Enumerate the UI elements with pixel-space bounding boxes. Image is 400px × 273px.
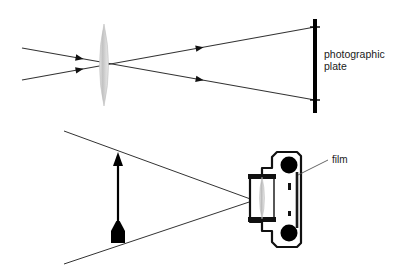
optics-figure: photographic plate bbox=[0, 0, 400, 273]
photographic-plate bbox=[313, 19, 317, 113]
top-panel-group: photographic plate bbox=[22, 19, 385, 113]
ray-lower-line bbox=[22, 27, 315, 80]
ray-upper-arrowhead bbox=[75, 54, 83, 60]
object-arrow-foot bbox=[111, 221, 125, 243]
ray-lower-arrowhead bbox=[75, 67, 83, 73]
camera-body bbox=[248, 152, 301, 247]
converging-lens-icon bbox=[100, 24, 109, 106]
bottom-panel-group: film bbox=[64, 131, 348, 264]
film-image-mark-bottom bbox=[288, 211, 291, 216]
film-spool-bottom bbox=[281, 225, 298, 242]
object-arrow bbox=[111, 152, 125, 243]
film-spool-top bbox=[281, 157, 298, 174]
diagram-canvas: photographic plate bbox=[0, 0, 400, 273]
film-image-mark-top bbox=[288, 183, 291, 190]
ray-lower-arrowhead-outgoing bbox=[195, 45, 203, 51]
ray-upper-arrowhead-outgoing bbox=[195, 76, 203, 82]
photographic-plate-label-line2: plate bbox=[324, 60, 347, 72]
object-arrow-shaft bbox=[117, 166, 119, 221]
ray-lower-incoming bbox=[22, 27, 315, 80]
ray-upper-incoming bbox=[22, 48, 315, 100]
film-label-leader-line bbox=[298, 160, 328, 175]
film-label: film bbox=[332, 154, 348, 165]
photographic-plate-label-line1: photographic bbox=[324, 48, 385, 60]
film-plane bbox=[296, 172, 299, 228]
ray-upper-line bbox=[22, 48, 315, 100]
object-arrow-head bbox=[113, 152, 123, 166]
